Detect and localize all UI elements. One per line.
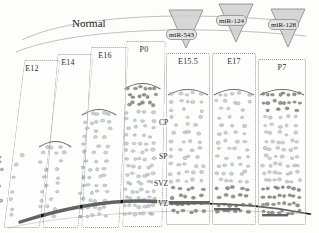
mirna-label-mir-124[interactable]: miR-124 (216, 15, 247, 26)
layer-label-svz: SVZ (153, 179, 169, 188)
column-label-E16: E16 (86, 51, 124, 60)
column-box-P7[interactable] (258, 59, 306, 225)
layer-label-vz: VZ (157, 199, 169, 208)
column-label-P7: P7 (258, 63, 306, 72)
column-label-P0: P0 (124, 45, 164, 54)
column-box-E15-5[interactable] (166, 53, 210, 225)
figure-root: Normal E12E14E16P0E15.5E17P7 CPSPSVZVZ m… (0, 0, 319, 233)
column-box-E17[interactable] (212, 53, 256, 225)
mirna-label-mir-543[interactable]: miR-543 (166, 29, 197, 40)
page-title: Normal (72, 17, 106, 29)
column-label-E12: E12 (14, 64, 50, 73)
column-label-E15-5: E15.5 (166, 57, 210, 66)
layer-label-cp: CP (158, 118, 169, 127)
mirna-label-mir-128[interactable]: miR-128 (268, 19, 299, 30)
column-label-E17: E17 (212, 57, 256, 66)
layer-label-sp: SP (158, 152, 168, 161)
column-label-E14: E14 (50, 58, 86, 67)
